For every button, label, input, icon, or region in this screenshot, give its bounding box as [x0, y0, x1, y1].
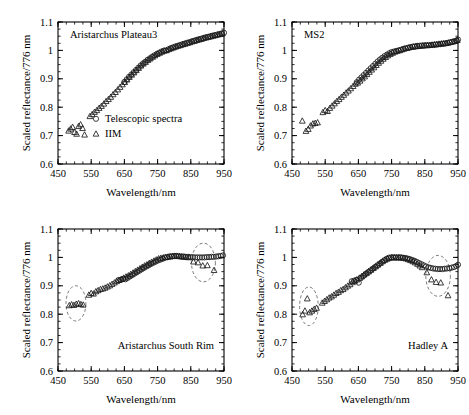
x-tick-label: 450 [284, 375, 300, 386]
x-tick-label: 950 [216, 375, 232, 386]
y-tick-label: 0.6 [40, 366, 53, 377]
y-tick-label: 0.6 [40, 159, 53, 170]
x-axis-title: Wavelength/nm [106, 393, 176, 405]
chart-panel-3: 4505506507508509500.60.70.80.911.1Hadley… [234, 207, 468, 414]
y-tick-label: 0.8 [274, 309, 287, 320]
y-tick-label: 1 [282, 252, 287, 263]
y-tick-label: 0.6 [274, 159, 287, 170]
y-axis-title: Scaled reflectance/776 nm [20, 241, 32, 358]
y-axis-title: Scaled reflectance/776 nm [254, 34, 266, 151]
series-telescopic-spectra [354, 37, 460, 85]
legend-circle-icon [93, 116, 98, 121]
x-tick-label: 950 [450, 168, 466, 179]
triangle-marker [82, 132, 88, 137]
x-tick-label: 750 [150, 168, 166, 179]
triangle-marker [302, 308, 308, 313]
y-tick-label: 1 [48, 252, 53, 263]
x-tick-label: 750 [384, 375, 400, 386]
series-iim [66, 253, 216, 308]
panel-title: Aristarchus Plateau3 [70, 29, 157, 40]
y-tick-label: 1.1 [40, 17, 53, 28]
x-tick-label: 750 [384, 168, 400, 179]
y-tick-label: 1.1 [40, 224, 53, 235]
triangle-marker [299, 118, 305, 123]
figure-panel-grid: 4505506507508509500.60.70.80.911.1Arista… [0, 0, 469, 415]
y-tick-label: 0.8 [40, 102, 53, 113]
x-tick-label: 650 [351, 375, 367, 386]
x-tick-label: 850 [417, 375, 433, 386]
x-axis-title: Wavelength/nm [340, 186, 410, 198]
y-tick-label: 0.9 [274, 73, 287, 84]
x-axis-title: Wavelength/nm [106, 186, 176, 198]
x-tick-label: 850 [183, 375, 199, 386]
x-tick-label: 550 [317, 375, 333, 386]
triangle-marker [429, 277, 435, 282]
chart-panel-0: 4505506507508509500.60.70.80.911.1Arista… [0, 0, 234, 207]
legend-label: IIM [105, 128, 122, 139]
x-tick-label: 450 [50, 375, 66, 386]
y-tick-label: 1.1 [274, 224, 287, 235]
y-tick-label: 0.7 [274, 130, 287, 141]
panel-title: Aristarchus South Rim [118, 340, 214, 351]
y-tick-label: 0.7 [274, 337, 287, 348]
y-tick-label: 0.8 [274, 102, 287, 113]
plot-frame [58, 22, 224, 164]
legend-triangle-icon [93, 131, 99, 136]
y-axis-title: Scaled reflectance/776 nm [20, 34, 32, 151]
y-tick-label: 0.7 [40, 337, 53, 348]
triangle-marker [304, 296, 310, 301]
x-tick-label: 650 [117, 168, 133, 179]
triangle-marker [205, 262, 211, 267]
x-tick-label: 550 [83, 168, 99, 179]
y-tick-label: 0.7 [40, 130, 53, 141]
x-tick-label: 650 [351, 168, 367, 179]
chart-panel-2: 4505506507508509500.60.70.80.911.1Arista… [0, 207, 234, 414]
series-iim [299, 37, 460, 133]
x-tick-label: 850 [417, 168, 433, 179]
panel-title: Hadley A [408, 340, 448, 351]
y-tick-label: 1 [48, 45, 53, 56]
x-tick-label: 650 [117, 375, 133, 386]
x-tick-label: 750 [150, 375, 166, 386]
panel-title: MS2 [304, 29, 324, 40]
x-tick-label: 450 [284, 168, 300, 179]
x-tick-label: 550 [317, 168, 333, 179]
triangle-marker [211, 267, 217, 272]
x-axis-title: Wavelength/nm [340, 393, 410, 405]
y-axis-title: Scaled reflectance/776 nm [254, 241, 266, 358]
x-tick-label: 950 [216, 168, 232, 179]
triangle-marker [438, 280, 444, 285]
y-tick-label: 0.8 [40, 309, 53, 320]
chart-panel-1: 4505506507508509500.60.70.80.911.1MS2Wav… [234, 0, 468, 207]
legend-label: Telescopic spectra [105, 113, 182, 124]
series-telescopic-spectra [349, 255, 460, 285]
y-tick-label: 0.9 [40, 73, 53, 84]
highlight-ellipse-right-icon [426, 255, 451, 296]
x-tick-label: 550 [83, 375, 99, 386]
triangle-marker [80, 125, 86, 130]
x-tick-label: 450 [50, 168, 66, 179]
y-tick-label: 1.1 [274, 17, 287, 28]
y-tick-label: 0.6 [274, 366, 287, 377]
y-tick-label: 0.9 [274, 280, 287, 291]
x-tick-label: 950 [450, 375, 466, 386]
y-tick-label: 0.9 [40, 280, 53, 291]
triangle-marker [445, 292, 451, 297]
legend: Telescopic spectraIIM [93, 113, 182, 139]
y-tick-label: 1 [282, 45, 287, 56]
x-tick-label: 850 [183, 168, 199, 179]
